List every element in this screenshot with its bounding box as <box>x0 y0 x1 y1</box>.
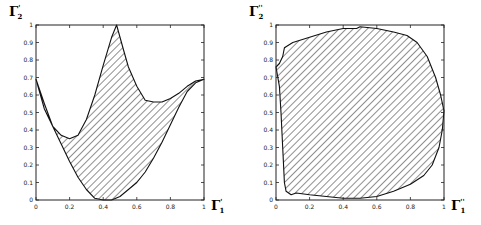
y-tick-label: 0.7 <box>23 74 33 81</box>
x-tick-label: 0.4 <box>98 203 108 210</box>
y-tick-label: 0.5 <box>263 109 273 116</box>
y-tick-label: 0.5 <box>23 109 33 116</box>
y-tick-label: 0.9 <box>263 39 273 46</box>
x-tick-label: 1 <box>202 203 206 210</box>
y-tick-label: 1 <box>29 21 33 28</box>
y-tick-label: 0.1 <box>23 179 33 186</box>
x-tick-label: 0 <box>274 203 278 210</box>
x-tick-label: 0.6 <box>372 203 382 210</box>
y-tick-label: 0.9 <box>23 39 33 46</box>
x-tick-label: 1 <box>442 203 446 210</box>
hatched-region <box>36 25 204 200</box>
y-tick-label: 0.8 <box>23 56 33 63</box>
x-axis-label-left: Γ'1 <box>211 198 227 213</box>
x-tick-label: 0.4 <box>338 203 348 210</box>
y-tick-label: 0.2 <box>23 161 33 168</box>
y-tick-label: 0 <box>29 196 33 203</box>
y-tick-label: 0.6 <box>23 91 33 98</box>
y-axis-label-right: Γ''2 <box>249 4 267 19</box>
y-tick-label: 0.8 <box>263 56 273 63</box>
y-tick-label: 0.6 <box>263 91 273 98</box>
y-tick-label: 0.4 <box>23 126 33 133</box>
plot-right: 00.20.40.60.8100.10.20.30.40.50.60.70.80… <box>240 0 481 225</box>
hatched-region <box>276 27 444 199</box>
y-axis-label-left: Γ'2 <box>9 4 25 19</box>
chart-panel-left: 00.20.40.60.8100.10.20.30.40.50.60.70.80… <box>0 0 240 225</box>
x-tick-label: 0 <box>34 203 38 210</box>
y-tick-label: 1 <box>269 21 273 28</box>
y-tick-label: 0.7 <box>263 74 273 81</box>
y-tick-label: 0.3 <box>23 144 33 151</box>
y-tick-label: 0.2 <box>263 161 273 168</box>
x-tick-label: 0.6 <box>132 203 142 210</box>
chart-panel-right: 00.20.40.60.8100.10.20.30.40.50.60.70.80… <box>240 0 481 225</box>
plot-left: 00.20.40.60.8100.10.20.30.40.50.60.70.80… <box>0 0 240 225</box>
x-tick-label: 0.8 <box>166 203 176 210</box>
x-tick-label: 0.2 <box>65 203 75 210</box>
x-tick-label: 0.2 <box>305 203 315 210</box>
y-tick-label: 0.4 <box>263 126 273 133</box>
y-tick-label: 0.1 <box>263 179 273 186</box>
x-axis-label-right: Γ''1 <box>451 198 469 213</box>
x-tick-label: 0.8 <box>406 203 416 210</box>
y-tick-label: 0 <box>269 196 273 203</box>
y-tick-label: 0.3 <box>263 144 273 151</box>
